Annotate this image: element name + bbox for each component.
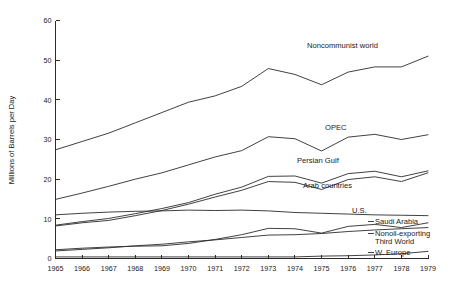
x-tick-label: 1967 (101, 264, 117, 273)
x-tick-label: 1965 (48, 264, 64, 273)
x-tick-label: 1974 (287, 264, 303, 273)
chart-series (56, 56, 429, 257)
x-tick-label: 1975 (314, 264, 330, 273)
series-label-u-s: U.S. (352, 206, 367, 215)
y-tick-label: 60 (44, 16, 52, 25)
y-tick-label: 0 (48, 254, 52, 263)
chart-canvas: Noncommunist worldOPECPersian GulfArab c… (0, 0, 459, 286)
series-label-persian-gulf: Persian Gulf (297, 156, 340, 165)
x-tick-label: 1969 (154, 264, 170, 273)
y-tick-label: 20 (44, 175, 52, 184)
series-line-u-s (56, 210, 429, 216)
series-line-noncommunist-world (56, 56, 429, 150)
oil-production-line-chart: Noncommunist worldOPECPersian GulfArab c… (0, 0, 459, 286)
y-tick-label: 30 (44, 135, 52, 144)
chart-axes (56, 21, 429, 259)
series-line-nonoil-exporting-third-world (56, 228, 429, 251)
series-label-nonoil-exporting-third-world: Third World (375, 237, 414, 246)
x-tick-label: 1977 (367, 264, 383, 273)
series-line-saudi-arabia (56, 223, 429, 250)
series-label-opec: OPEC (325, 123, 347, 132)
x-tick-label: 1971 (207, 264, 223, 273)
y-tick-label: 40 (44, 96, 52, 105)
series-line-opec (56, 134, 429, 199)
y-axis-title: Millions of Barrels per Day (7, 95, 16, 184)
x-tick-label: 1979 (420, 264, 436, 273)
x-tick-label: 1978 (393, 264, 409, 273)
x-tick-label: 1970 (181, 264, 197, 273)
series-label-w-europe: W. Europe (375, 248, 410, 257)
series-label-arab-countries: Arab countries (303, 181, 352, 190)
x-tick-label: 1976 (340, 264, 356, 273)
y-tick-label: 50 (44, 56, 52, 65)
y-tick-label: 10 (44, 215, 52, 224)
x-tick-label: 1966 (74, 264, 90, 273)
series-label-saudi-arabia: Saudi Arabia (375, 217, 419, 226)
x-tick-label: 1973 (260, 264, 276, 273)
x-tick-label: 1972 (234, 264, 250, 273)
series-label-noncommunist-world: Noncommunist world (307, 41, 378, 50)
series-line-persian-gulf (56, 171, 429, 225)
x-tick-label: 1968 (127, 264, 143, 273)
